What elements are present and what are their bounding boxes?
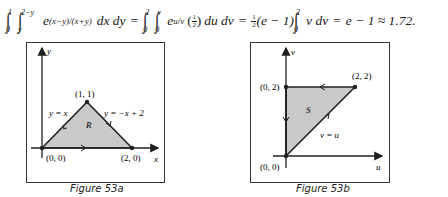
result: e − 1 ≈ 1.72. [346, 13, 416, 29]
inner-upper-limit: 2−y [21, 8, 34, 17]
figure-53a-plot: y x R (1, 1) (0, 0) (2, 0) y = x y = −x … [27, 43, 164, 182]
figure-53b: v u S (0, 2) (0, 0) (2, 2) v = u [250, 42, 390, 183]
edge-label: v = u [320, 130, 340, 140]
x-axis-label: x [153, 154, 158, 164]
vertex-label: (2, 0) [121, 153, 141, 163]
inner-upper-limit: v [157, 8, 161, 17]
figure-caption: Figure 53b [296, 183, 350, 194]
vertex-label: (2, 2) [352, 71, 372, 81]
upper-limit: 2 [296, 8, 300, 17]
integrand-exponent: u/v [173, 16, 184, 26]
differentials: du dv [204, 13, 234, 29]
integrand-exponent: (x−y)/(x+y) [49, 16, 92, 26]
differentials: dx dy [97, 13, 126, 29]
outer-lower-limit: 0 [143, 25, 147, 34]
half-fraction: 12 [192, 14, 197, 29]
coefficient-rest: (e − 1) [256, 13, 294, 29]
outer-upper-limit: 1 [8, 8, 12, 17]
v-axis-label: v [291, 47, 295, 57]
edge-label: y = −x + 2 [103, 108, 144, 118]
outer-lower-limit: 0 [6, 25, 10, 34]
y-axis-label: y [46, 46, 51, 56]
edge-label: y = x [48, 108, 68, 118]
vertex-label: (0, 0) [46, 153, 66, 163]
equals-sign: = [131, 13, 139, 29]
equation-line: ∫ 10 ∫ 2−yy e(x−y)/(x+y) dx dy = ∫ 20 ∫ … [6, 4, 446, 38]
lower-limit: 0 [294, 25, 298, 34]
u-axis-label: u [376, 162, 381, 172]
equals-sign: = [239, 13, 247, 29]
figure-caption: Figure 53a [70, 183, 124, 194]
vertex-label: (0, 2) [260, 82, 280, 92]
inner-lower-limit: y [18, 25, 22, 34]
figure-53b-plot: v u S (0, 2) (0, 0) (2, 2) v = u [251, 43, 389, 182]
region-label: R [85, 120, 92, 130]
outer-upper-limit: 2 [145, 8, 149, 17]
integrand: v dv [306, 13, 328, 29]
vertex-label: (0, 0) [260, 162, 280, 172]
figure-53a: y x R (1, 1) (0, 0) (2, 0) y = x y = −x … [26, 42, 165, 183]
vertex-label: (1, 1) [75, 89, 95, 99]
inner-lower-limit: 0 [155, 25, 159, 34]
equals-sign: = [333, 13, 341, 29]
region-label: S [306, 105, 311, 115]
